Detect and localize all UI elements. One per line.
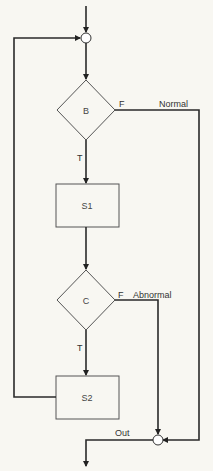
abnormal-label: Abnormal <box>133 290 172 300</box>
abnormal-path-line <box>115 300 158 434</box>
exit-arrow <box>86 440 153 466</box>
process-s2-label: S2 <box>72 393 102 403</box>
decision-b-label: B <box>76 106 96 116</box>
flowchart-canvas <box>0 0 213 471</box>
c-false-label: F <box>118 290 124 300</box>
entry-junction <box>81 33 91 43</box>
b-true-label: T <box>77 153 83 163</box>
out-label: Out <box>115 428 130 438</box>
normal-path-line <box>115 110 199 440</box>
b-false-label: F <box>119 99 125 109</box>
c-true-label: T <box>77 343 83 353</box>
normal-label: Normal <box>159 99 188 109</box>
exit-junction <box>153 435 163 445</box>
process-s1-label: S1 <box>72 201 102 211</box>
decision-c-label: C <box>76 296 96 306</box>
